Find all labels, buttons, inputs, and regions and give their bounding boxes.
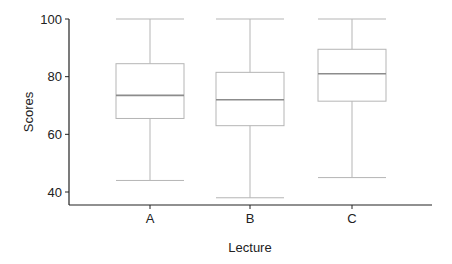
y-axis-title: Scores (21, 91, 36, 132)
iqr-box (318, 49, 386, 101)
y-tick-label: 60 (48, 127, 62, 142)
x-tick-label: C (347, 211, 356, 226)
x-tick-label: B (246, 211, 255, 226)
box-b (216, 19, 284, 198)
y-tick-label: 100 (40, 12, 62, 27)
x-tick-label: A (146, 211, 155, 226)
y-tick-label: 80 (48, 69, 62, 84)
box-a (116, 19, 184, 180)
y-tick-label: 40 (48, 185, 62, 200)
box-c (318, 19, 386, 178)
iqr-box (116, 64, 184, 119)
boxes (116, 19, 386, 198)
y-axis: 406080100 (40, 12, 69, 206)
box-plot: 406080100 ABC Scores Lecture (0, 0, 452, 264)
x-axis: ABC (69, 205, 432, 226)
x-axis-title: Lecture (228, 240, 271, 255)
